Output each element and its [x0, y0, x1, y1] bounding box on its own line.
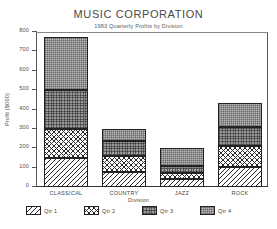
legend-label: Qtr 1 [44, 208, 57, 214]
chart-container: MUSIC CORPORATION 1983 Quarterly Profits… [0, 0, 277, 229]
bar-segment[interactable] [218, 103, 262, 127]
y-axis-tick-label: 100 [19, 163, 29, 169]
bar-segment[interactable] [160, 179, 204, 187]
y-axis-tick-label: 500 [19, 85, 29, 91]
legend-swatch [84, 206, 99, 215]
chart-legend: Qtr 1Qtr 2Qtr 3Qtr 4 [26, 206, 256, 220]
x-axis-tick-label: ROCK [211, 190, 269, 196]
bar-group[interactable] [102, 32, 146, 187]
legend-item[interactable]: Qtr 4 [200, 206, 231, 215]
y-axis-label: Profit ($000) [4, 32, 14, 187]
bar-segment[interactable] [160, 148, 204, 165]
y-axis-tick-label: 300 [19, 124, 29, 130]
y-axis-tick-label: 800 [19, 27, 29, 33]
bar-segment[interactable] [160, 173, 204, 179]
plot-right-border [267, 32, 268, 187]
legend-label: Qtr 2 [102, 208, 115, 214]
bar-group[interactable] [44, 32, 88, 187]
bar-segment[interactable] [102, 141, 146, 156]
bar-segment[interactable] [102, 156, 146, 172]
bar-group[interactable] [218, 32, 262, 187]
legend-item[interactable]: Qtr 2 [84, 206, 115, 215]
bar-segment[interactable] [218, 146, 262, 166]
bar-group[interactable] [160, 32, 204, 187]
bar-segment[interactable] [44, 90, 88, 129]
y-axis-tick-label: 700 [19, 46, 29, 52]
legend-swatch [142, 206, 157, 215]
bar-segment[interactable] [44, 37, 88, 90]
bar-segment[interactable] [102, 129, 146, 141]
y-axis-tick-label: 0 [26, 182, 29, 188]
legend-item[interactable]: Qtr 1 [26, 206, 57, 215]
bar-segment[interactable] [102, 172, 146, 188]
bar-segment[interactable] [218, 127, 262, 146]
bars-layer [37, 32, 267, 187]
y-axis-tick-label: 600 [19, 66, 29, 72]
legend-label: Qtr 3 [160, 208, 173, 214]
chart-title: MUSIC CORPORATION [0, 8, 277, 20]
legend-swatch [200, 206, 215, 215]
bar-segment[interactable] [218, 167, 262, 187]
legend-item[interactable]: Qtr 3 [142, 206, 173, 215]
bar-segment[interactable] [44, 158, 88, 187]
plot-area: 0100200300400500600700800 [36, 32, 268, 187]
bar-segment[interactable] [44, 129, 88, 158]
x-axis-tick-label: CLASSICAL [37, 190, 95, 196]
bar-segment[interactable] [160, 166, 204, 173]
x-axis-tick-label: JAZZ [153, 190, 211, 196]
chart-title-block: MUSIC CORPORATION 1983 Quarterly Profits… [0, 8, 277, 30]
y-axis-tick-label: 200 [19, 143, 29, 149]
x-axis-label: Division [0, 197, 277, 203]
legend-label: Qtr 4 [218, 208, 231, 214]
legend-swatch [26, 206, 41, 215]
chart-subtitle: 1983 Quarterly Profits by Division [0, 22, 277, 30]
x-axis-tick-label: COUNTRY [95, 190, 153, 196]
y-axis-tick-label: 400 [19, 105, 29, 111]
